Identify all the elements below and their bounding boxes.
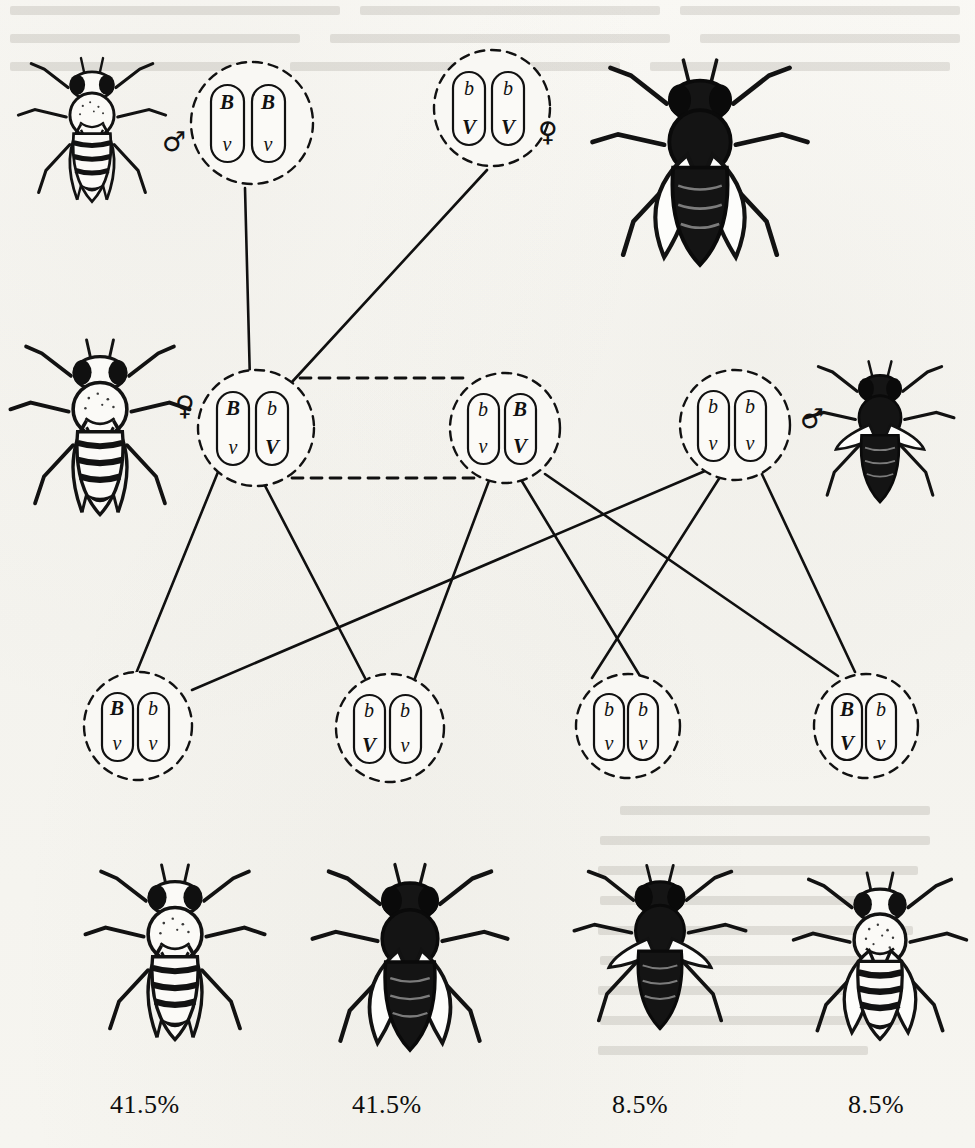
allele-crossover-c1-top: b [478,398,488,420]
allele-parent-male-c1-top: B [219,90,234,114]
allele-tester-c2-top: b [745,395,755,417]
allele-offspring-3-c2-top: b [638,698,648,720]
percent-offspring-4: 8.5% [848,1090,904,1120]
allele-parent-female-c2-bottom: V [501,115,517,139]
allele-offspring-1-c1-bottom: v [113,732,122,754]
allele-crossover-c2-bottom: V [513,434,529,458]
allele-crossover-c2-top: B [512,397,527,421]
cell-parent-female[interactable]: b V b V [434,50,550,166]
allele-offspring-4-c1-bottom: V [840,731,856,755]
figure-page: B v B v b V b V B v b V [0,0,975,1148]
allele-parent-male-c2-bottom: v [264,133,273,155]
cell-f1-female[interactable]: B v b V [198,370,314,486]
allele-offspring-4-c2-bottom: v [877,732,886,754]
allele-tester-c1-bottom: v [709,432,718,454]
cell-offspring-4[interactable]: B V b v [814,674,918,778]
sex-symbol-parent-female: ♀ [538,118,558,145]
allele-offspring-2-c1-bottom: V [362,733,378,757]
cell-tester-male[interactable]: b v b v [680,370,790,480]
allele-offspring-4-c2-top: b [876,698,886,720]
allele-parent-female-c2-top: b [503,77,513,99]
allele-f1-female-c2-top: b [267,397,277,419]
allele-offspring-2-c1-top: b [364,699,374,721]
sex-symbol-parent-male: ♂ [162,128,186,155]
allele-tester-c2-bottom: v [746,432,755,454]
allele-offspring-1-c2-bottom: v [149,732,158,754]
cell-offspring-1[interactable]: B v b v [84,672,192,780]
allele-f1-female-c2-bottom: V [265,435,281,459]
percent-offspring-3: 8.5% [612,1090,668,1120]
allele-offspring-3-c1-bottom: v [605,732,614,754]
allele-parent-male-c2-top: B [260,90,275,114]
allele-offspring-1-c2-top: b [148,697,158,719]
genotype-cells: B v B v b V b V B v b V [0,0,975,1148]
cell-offspring-2[interactable]: b V b v [336,674,444,782]
allele-offspring-1-c1-top: B [109,696,124,720]
allele-offspring-4-c1-top: B [839,697,854,721]
sex-symbol-tester-male: ♂ [800,405,824,432]
allele-f1-female-c1-bottom: v [229,436,238,458]
allele-offspring-2-c2-top: b [400,699,410,721]
percent-offspring-1: 41.5% [110,1090,180,1120]
cell-parent-male[interactable]: B v B v [191,62,313,184]
sex-symbol-f1-female: ♀ [175,392,195,419]
allele-offspring-3-c2-bottom: v [639,732,648,754]
cell-offspring-3[interactable]: b v b v [576,674,680,778]
allele-offspring-2-c2-bottom: v [401,734,410,756]
allele-f1-female-c1-top: B [225,396,240,420]
percent-offspring-2: 41.5% [352,1090,422,1120]
allele-tester-c1-top: b [708,395,718,417]
allele-offspring-3-c1-top: b [604,698,614,720]
cell-f1-crossover[interactable]: b v B V [450,373,560,483]
allele-parent-female-c1-top: b [464,77,474,99]
allele-parent-female-c1-bottom: V [462,115,478,139]
allele-parent-male-c1-bottom: v [223,133,232,155]
allele-crossover-c1-bottom: v [479,435,488,457]
